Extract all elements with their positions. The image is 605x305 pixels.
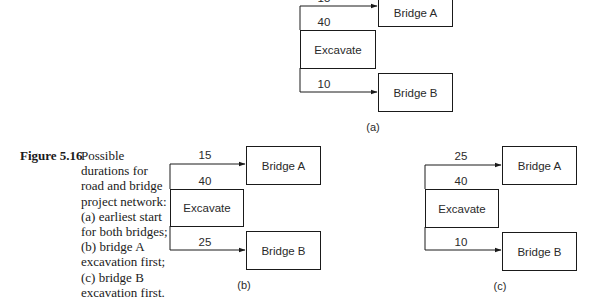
- figure-label: Figure 5.16: [20, 148, 83, 163]
- caption-line: (b) bridge A: [81, 239, 176, 254]
- figure-caption-text: Possible durations for road and bridge p…: [81, 148, 176, 300]
- diagram-a-sublabel: (a): [358, 122, 388, 133]
- caption-line: (a) earliest start: [81, 209, 176, 224]
- bridge-b-label: Bridge B: [517, 246, 561, 258]
- bridge-b-label: Bridge B: [393, 87, 437, 99]
- diagram-c-sublabel: (c): [485, 281, 515, 292]
- excavate-label: Excavate: [438, 203, 485, 215]
- excavate-duration: 40: [309, 17, 339, 29]
- bridge-a-label: Bridge A: [262, 160, 305, 172]
- bridge-a-lag: 15: [309, 0, 339, 5]
- caption-line: excavation first;: [81, 254, 176, 269]
- excavate-box: Excavate: [170, 189, 244, 227]
- excavate-duration: 40: [190, 176, 220, 188]
- figure-canvas: Bridge A 15 40 Excavate 10 Bridge B (a) …: [0, 0, 605, 305]
- caption-line: for both bridges;: [81, 224, 176, 239]
- excavate-box: Excavate: [300, 30, 376, 69]
- bridge-a-label: Bridge A: [518, 160, 561, 172]
- excavate-duration: 40: [446, 176, 476, 188]
- caption-line: durations for: [81, 163, 176, 178]
- bridge-b-box: Bridge B: [378, 73, 453, 112]
- bridge-a-lag: 25: [446, 151, 476, 163]
- diagram-b-sublabel: (b): [229, 280, 259, 291]
- excavate-label: Excavate: [183, 202, 230, 214]
- caption-line: project network:: [81, 194, 176, 209]
- excavate-box: Excavate: [425, 189, 499, 228]
- bridge-a-box: Bridge A: [502, 146, 577, 185]
- caption-line: excavation first.: [81, 285, 176, 300]
- bridge-b-lag: 10: [309, 79, 339, 91]
- caption-line: Possible: [81, 148, 176, 163]
- bridge-b-label: Bridge B: [261, 245, 305, 257]
- bridge-b-box: Bridge B: [502, 232, 577, 271]
- caption-line: road and bridge: [81, 178, 176, 193]
- bridge-a-lag: 15: [190, 150, 220, 162]
- bridge-a-box: Bridge A: [246, 146, 321, 185]
- excavate-label: Excavate: [314, 44, 361, 56]
- caption-line: (c) bridge B: [81, 270, 176, 285]
- bridge-b-lag: 25: [190, 237, 220, 249]
- bridge-b-lag: 10: [446, 237, 476, 249]
- bridge-a-box: Bridge A: [378, 0, 453, 27]
- bridge-a-label: Bridge A: [394, 7, 437, 19]
- bridge-b-box: Bridge B: [246, 231, 321, 270]
